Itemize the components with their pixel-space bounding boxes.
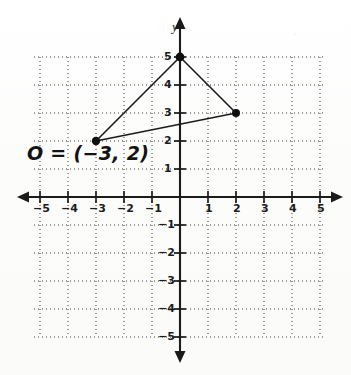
arrow-right-icon	[331, 192, 343, 203]
x-tick-label--3: −3	[89, 203, 106, 214]
x-tick-label-4: 4	[289, 203, 297, 214]
y-tick-label--2: −2	[158, 247, 175, 258]
point-right-vertex	[232, 109, 240, 117]
x-tick-label-5: 5	[317, 203, 325, 214]
y-tick-label--3: −3	[158, 275, 175, 286]
axes	[24, 24, 336, 356]
arrow-left-icon	[17, 192, 29, 203]
coordinate-plane-plot	[0, 0, 351, 375]
triangle-shape	[96, 57, 236, 141]
y-axis-name: y	[172, 20, 178, 33]
x-tick-label--4: −4	[61, 203, 78, 214]
point-top-vertex	[176, 53, 185, 62]
y-tick-label-1: 1	[164, 163, 172, 174]
x-tick-label--5: −5	[33, 203, 50, 214]
y-tick-label--4: −4	[158, 303, 175, 314]
x-tick-label-1: 1	[205, 203, 213, 214]
x-tick-label--1: −1	[145, 203, 162, 214]
point-annotation-label: O = (−3, 2)	[27, 144, 149, 163]
vertex-points	[92, 53, 240, 146]
x-tick-label--2: −2	[117, 203, 134, 214]
y-tick-label-3: 3	[164, 107, 172, 118]
y-tick-label-2: 2	[164, 135, 172, 146]
y-tick-label--1: −1	[158, 219, 175, 230]
coordinate-plane-figure: y −5 −4 −3 −2 −1 1 2 3 4 5 5 4 3 2 1 −1 …	[0, 0, 351, 375]
y-tick-label-5: 5	[164, 51, 172, 62]
x-tick-label-2: 2	[233, 203, 241, 214]
x-tick-label-3: 3	[261, 203, 269, 214]
y-tick-label-4: 4	[164, 79, 172, 90]
arrow-down-icon	[175, 351, 186, 363]
y-tick-label--5: −5	[158, 331, 175, 342]
